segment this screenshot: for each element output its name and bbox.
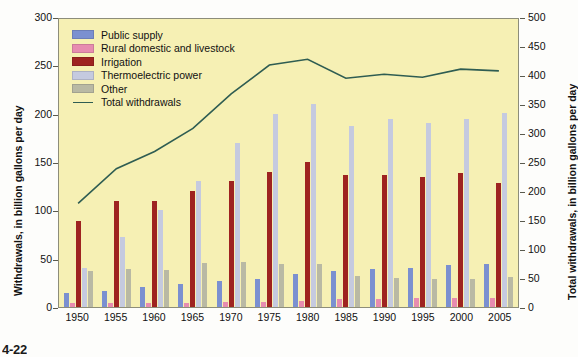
y-axis-right-tick-mark: [520, 192, 525, 193]
x-axis-tick-label: 1980: [288, 311, 328, 323]
y-axis-right-title: Total withdrawals, in billion gallons pe…: [566, 84, 578, 300]
y-axis-left-tick-label: 250: [26, 60, 52, 71]
x-axis-tick-label: 1960: [134, 311, 174, 323]
chart-figure: Water Sources in Water Water Supplies of…: [0, 0, 578, 357]
y-axis-left-tick-label: 0: [26, 302, 52, 313]
x-axis-tick-label: 1990: [365, 311, 405, 323]
legend-item: Public supply: [72, 28, 235, 42]
legend-swatch-icon: [72, 71, 94, 80]
y-axis-right-tick-mark: [520, 308, 525, 309]
legend-swatch-icon: [72, 57, 94, 66]
legend-item-label: Total withdrawals: [101, 96, 181, 108]
y-axis-right-tick-mark: [520, 163, 525, 164]
y-axis-right-tick-label: 0: [528, 302, 534, 313]
y-axis-left-tick-label: 200: [26, 109, 52, 120]
y-axis-left-title: Withdrawals, in billion gallons per day: [12, 105, 24, 296]
y-axis-right-tick-mark: [520, 105, 525, 106]
y-axis-left-tick-label: 150: [26, 157, 52, 168]
legend-item: Other: [72, 82, 235, 96]
y-axis-left-tick-mark: [53, 66, 58, 67]
legend-item: Rural domestic and livestock: [72, 42, 235, 56]
figure-number: 4-22: [2, 342, 27, 357]
x-axis-tick-label: 2005: [480, 311, 520, 323]
y-axis-right-tick-mark: [520, 221, 525, 222]
y-axis-right-tick-mark: [520, 279, 525, 280]
x-axis-tick-label: 1970: [211, 311, 251, 323]
legend-item: Total withdrawals: [72, 96, 235, 110]
legend-item: Irrigation: [72, 55, 235, 69]
y-axis-left-tick-mark: [53, 18, 58, 19]
y-axis-left-tick-mark: [53, 163, 58, 164]
y-axis-right-tick-label: 150: [528, 215, 546, 226]
x-axis-tick-label: 1965: [172, 311, 212, 323]
x-axis-tick-label: 1955: [96, 311, 136, 323]
y-axis-right-tick-label: 400: [528, 70, 546, 81]
legend-item-label: Other: [101, 83, 127, 95]
y-axis-right-tick-mark: [520, 18, 525, 19]
x-axis-tick-label: 1995: [403, 311, 443, 323]
y-axis-right-tick-label: 350: [528, 99, 546, 110]
y-axis-right-tick-mark: [520, 134, 525, 135]
x-axis-tick-label: 1975: [249, 311, 289, 323]
legend-item-label: Thermoelectric power: [101, 69, 202, 81]
y-axis-left-tick-label: 50: [26, 254, 52, 265]
legend-item: Thermoelectric power: [72, 69, 235, 83]
y-axis-left-tick-label: 300: [26, 12, 52, 23]
y-axis-right-tick-mark: [520, 250, 525, 251]
chart-legend: Public supplyRural domestic and livestoc…: [72, 28, 235, 109]
y-axis-right-tick-label: 450: [528, 41, 546, 52]
x-axis-tick-label: 1985: [326, 311, 366, 323]
y-axis-left-tick-label: 100: [26, 205, 52, 216]
legend-item-label: Irrigation: [101, 56, 142, 68]
x-axis-tick-label: 2000: [441, 311, 481, 323]
y-axis-right-tick-label: 500: [528, 12, 546, 23]
y-axis-right-tick-label: 300: [528, 128, 546, 139]
legend-item-label: Public supply: [101, 29, 163, 41]
legend-item-label: Rural domestic and livestock: [101, 42, 235, 54]
y-axis-right-tick-label: 200: [528, 186, 546, 197]
y-axis-right-tick-label: 100: [528, 244, 546, 255]
y-axis-left-tick-mark: [53, 308, 58, 309]
y-axis-left-tick-mark: [53, 115, 58, 116]
y-axis-left-tick-mark: [53, 260, 58, 261]
y-axis-right-tick-mark: [520, 76, 525, 77]
legend-line-icon: [72, 98, 94, 107]
legend-swatch-icon: [72, 84, 94, 93]
legend-swatch-icon: [72, 44, 94, 53]
y-axis-right-tick-mark: [520, 47, 525, 48]
y-axis-left-tick-mark: [53, 211, 58, 212]
legend-swatch-icon: [72, 30, 94, 39]
y-axis-right-tick-label: 50: [528, 273, 540, 284]
x-axis-tick-label: 1950: [57, 311, 97, 323]
y-axis-right-tick-label: 250: [528, 157, 546, 168]
